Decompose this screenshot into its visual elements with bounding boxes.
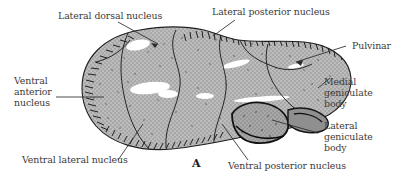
panel-letter-a: A (192, 158, 201, 170)
leader-lateral-posterior (213, 20, 235, 36)
label-medial-geniculate-body: Medial geniculate body (324, 76, 373, 110)
label-lateral-dorsal-nucleus: Lateral dorsal nucleus (58, 10, 162, 21)
label-lateral-posterior-nucleus: Lateral posterior nucleus (212, 6, 330, 17)
label-pulvinar: Pulvinar (352, 40, 391, 51)
label-ventral-posterior-nucleus: Ventral posterior nucleus (228, 160, 346, 171)
label-ventral-anterior-nucleus: Ventral anterior nucleus (14, 75, 52, 109)
label-ventral-lateral-nucleus: Ventral lateral nucleus (22, 154, 128, 165)
label-lateral-geniculate-body: Lateral geniculate body (324, 120, 373, 154)
thalamus-figure: Lateral dorsal nucleus Lateral posterior… (0, 0, 400, 184)
